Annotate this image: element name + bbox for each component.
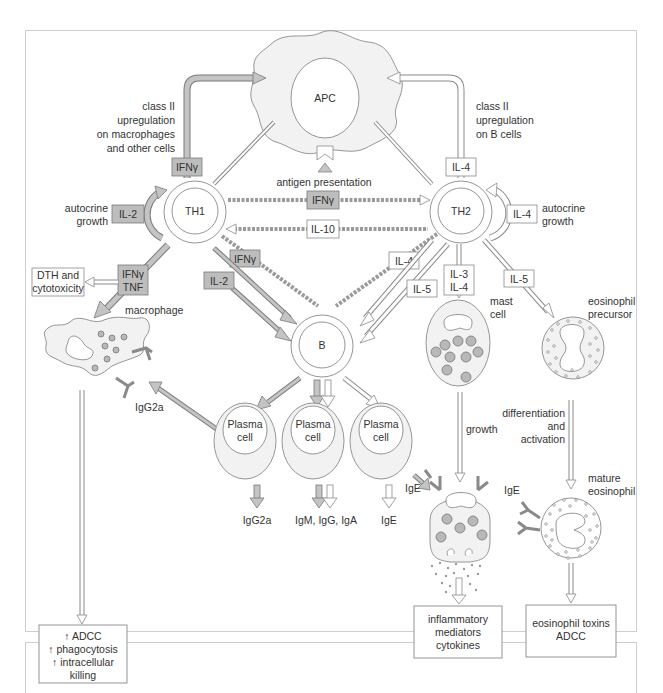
tnf-macro-label: TNF: [123, 281, 143, 293]
svg-text:class II: class II: [142, 100, 175, 112]
mast-growth-arrow: [455, 392, 465, 482]
eos-precursor-label-2: precursor: [588, 308, 633, 320]
eosinophil-precursor: [542, 317, 604, 379]
autocrine-left-2: growth: [76, 215, 108, 227]
svg-text:cell: cell: [373, 431, 389, 443]
th2-label: TH2: [451, 205, 471, 217]
eos-outcome-arrow: [566, 563, 576, 603]
plasma-cell-3: Plasma cell: [350, 403, 412, 479]
mast-out-2: mediators: [435, 626, 481, 638]
svg-text:Plasma: Plasma: [227, 418, 262, 430]
macrophage-label: macrophage: [125, 304, 184, 316]
mature-eos-label-2: eosinophil: [588, 485, 635, 497]
il4-autocrine-label: IL-4: [513, 208, 531, 220]
svg-text:Plasma: Plasma: [295, 418, 330, 430]
plasma2-output-arrow-grey: [312, 485, 326, 508]
eos-differentiation-arrow: [566, 400, 576, 489]
apc-th2-double-arrow: [375, 122, 432, 184]
autocrine-right-2: growth: [542, 215, 574, 227]
il5-eos-label: IL-5: [510, 273, 528, 285]
diff-label-2: and: [547, 420, 565, 432]
b-plasma2-arrow-white: [321, 380, 335, 407]
apc-label: APC: [314, 92, 336, 104]
autocrine-left-1: autocrine: [65, 202, 108, 214]
il2-autocrine-label: IL-2: [119, 208, 137, 220]
plasma-cell-2: Plasma cell: [282, 403, 344, 479]
il5-th2-b-label: IL-5: [413, 283, 431, 295]
th1-b-arrow-2: [232, 288, 291, 341]
th1-cell: TH1: [164, 181, 226, 243]
diff-label-3: activation: [521, 433, 566, 445]
svg-text:on macrophages: on macrophages: [97, 128, 175, 140]
dth-label-2: cytotoxicity: [32, 282, 84, 294]
mast-cell: [426, 300, 490, 386]
svg-text:Plasma: Plasma: [363, 418, 398, 430]
il2-th1-b-label: IL-2: [210, 275, 228, 287]
ige-eos-label: IgE: [504, 484, 520, 496]
il3-mast-label: IL-3: [450, 268, 468, 280]
dth-arrow: [85, 277, 118, 287]
svg-text:on B cells: on B cells: [476, 128, 522, 140]
dth-label-1: DTH and: [37, 269, 79, 281]
eos-out-2: ADCC: [556, 630, 586, 642]
mast-label-1: mast: [490, 295, 513, 307]
mature-eos-label-1: mature: [588, 472, 621, 484]
ifng-apc-label: IFNγ: [176, 161, 199, 173]
antigen-presentation-label: antigen presentation: [276, 176, 371, 188]
ifng-macro-label: IFNγ: [122, 268, 145, 280]
igm-igg-iga-output: IgM, IgG, IgA: [295, 514, 357, 526]
plasma3-output-arrow: [382, 485, 396, 508]
svg-text:cell: cell: [237, 431, 253, 443]
b-label: B: [318, 339, 325, 351]
mast-out-1: inflammatory: [428, 613, 489, 625]
svg-text:upregulation: upregulation: [117, 114, 175, 126]
mature-eosinophil: [518, 498, 601, 559]
igg2a-output: IgG2a: [243, 514, 272, 526]
plasma1-output-arrow: [250, 485, 264, 508]
growth-label: growth: [466, 423, 498, 435]
macrophage-cell: [44, 317, 152, 398]
macro-out-3: ↑ intracellular: [52, 656, 114, 668]
b-cell: B: [291, 315, 353, 377]
svg-text:upregulation: upregulation: [476, 114, 534, 126]
eos-out-1: eosinophil toxins: [532, 617, 610, 629]
il10-label: IL-10: [311, 223, 335, 235]
autocrine-right-1: autocrine: [542, 202, 585, 214]
activated-mast-cell: [425, 470, 490, 562]
macro-out-2: ↑ phagocytosis: [48, 643, 117, 655]
mast-out-3: cytokines: [436, 639, 480, 651]
b-plasma1-arrow: [256, 378, 300, 410]
th1-label: TH1: [185, 205, 205, 217]
apc-cell: APC: [251, 31, 402, 172]
plasma-cell-1: Plasma cell: [214, 403, 276, 479]
ige-output: IgE: [381, 514, 397, 526]
igg2a-macro-label: IgG2a: [135, 401, 164, 413]
diff-label-1: differentiation: [502, 407, 565, 419]
svg-text:and other cells: and other cells: [107, 142, 175, 154]
class2-left-annotation: class II upregulation on macrophages and…: [97, 100, 175, 154]
class2-right-annotation: class II upregulation on B cells: [476, 100, 534, 140]
il4-apc-label: IL-4: [452, 161, 470, 173]
macro-out-1: ↑ ADCC: [64, 630, 102, 642]
apc-th1-double-arrow: [214, 122, 274, 184]
ifng-th1-th2-label: IFNγ: [312, 194, 335, 206]
macro-out-4: killing: [70, 669, 96, 681]
eos-precursor-label-1: eosinophil: [588, 295, 635, 307]
il4-mast-label: IL-4: [450, 281, 468, 293]
svg-text:cell: cell: [305, 431, 321, 443]
macrophage-outcome-arrow: [77, 390, 87, 624]
plasma2-output-arrow-white: [323, 485, 337, 508]
th2-cell: TH2: [430, 181, 492, 243]
mast-outcome-arrow: [452, 578, 466, 604]
svg-text:class II: class II: [476, 100, 509, 112]
mast-label-2: cell: [490, 308, 506, 320]
ifng-th1-b-label: IFNγ: [234, 253, 257, 265]
